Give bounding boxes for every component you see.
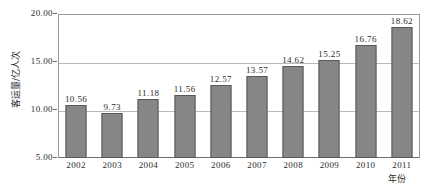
y-axis-tickmark [53,109,57,110]
bar-value-label: 11.18 [138,88,160,98]
bar[interactable] [66,105,87,158]
bar[interactable] [174,95,195,158]
bar[interactable] [283,66,304,158]
x-axis-tick-label: 2002 [58,160,94,170]
bar-slot: 18.62 [384,14,420,158]
y-axis-tick-label: 5.00 [13,152,53,162]
bar-value-label: 9.73 [104,102,121,112]
bar-slot: 15.25 [311,14,347,158]
bar[interactable] [391,27,412,158]
y-axis-tick-label: 20.00 [13,8,53,18]
y-axis-tickmark [53,157,57,158]
y-axis-tickmark [53,13,57,14]
bar-slot: 11.56 [167,14,203,158]
bar[interactable] [210,85,231,158]
bar-value-label: 18.62 [391,16,413,26]
bar-value-label: 13.57 [246,65,268,75]
x-axis-tick-label: 2003 [94,160,130,170]
bar-value-label: 15.25 [318,49,340,59]
bar-slot: 14.62 [275,14,311,158]
x-axis-tick-label: 2007 [239,160,275,170]
bar-slot: 11.18 [130,14,166,158]
x-axis-tick-label: 2010 [348,160,384,170]
x-axis-tick-label: 2009 [311,160,347,170]
x-axis-ticks: 2002200320042005200620072008200920102011 [58,160,420,174]
bar[interactable] [247,76,268,158]
bar[interactable] [102,113,123,158]
bar-value-label: 12.57 [210,74,232,84]
bars-layer: 10.569.7311.1811.5612.5713.5714.6215.251… [58,14,420,158]
bar-slot: 9.73 [94,14,130,158]
y-axis-tick-label: 10.00 [13,104,53,114]
x-axis-title: 年份 [388,172,406,185]
bar[interactable] [319,60,340,158]
bar-slot: 12.57 [203,14,239,158]
x-axis-tick-label: 2004 [130,160,166,170]
y-axis-tick-label: 15.00 [13,56,53,66]
y-axis-tickmark [53,61,57,62]
bar-value-label: 10.56 [65,94,87,104]
bar-value-label: 14.62 [282,55,304,65]
bar[interactable] [355,45,376,158]
bar-value-label: 11.56 [174,84,196,94]
bar-chart: 客运量/亿人次 5.0010.0015.0020.00 10.569.7311.… [0,0,433,190]
x-axis-tick-label: 2006 [203,160,239,170]
bar-value-label: 16.76 [355,34,377,44]
x-axis-tick-label: 2011 [384,160,420,170]
bar-slot: 13.57 [239,14,275,158]
bar-slot: 10.56 [58,14,94,158]
x-axis-tick-label: 2008 [275,160,311,170]
bar[interactable] [138,99,159,158]
bar-slot: 16.76 [348,14,384,158]
x-axis-tick-label: 2005 [167,160,203,170]
